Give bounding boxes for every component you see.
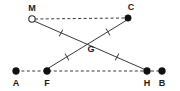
point-marker-a bbox=[13, 68, 20, 75]
point-label-a: A bbox=[13, 78, 20, 88]
point-label-b: B bbox=[159, 78, 166, 88]
point-marker-m bbox=[29, 16, 35, 22]
point-label-g: G bbox=[87, 44, 94, 54]
diagram-canvas: M C G A F H B bbox=[0, 0, 180, 91]
point-marker-c bbox=[125, 15, 131, 21]
point-marker-h bbox=[144, 68, 151, 75]
point-label-h: H bbox=[144, 78, 151, 88]
point-label-m: M bbox=[28, 3, 36, 13]
geometry-diagram: M C G A F H B bbox=[0, 0, 180, 91]
point-marker-f bbox=[44, 68, 51, 75]
point-marker-b bbox=[159, 68, 166, 75]
point-label-c: C bbox=[128, 2, 135, 12]
point-label-f: F bbox=[44, 78, 50, 88]
segment-m-c bbox=[35, 18, 125, 19]
labels-layer: M C G A F H B bbox=[13, 2, 166, 88]
